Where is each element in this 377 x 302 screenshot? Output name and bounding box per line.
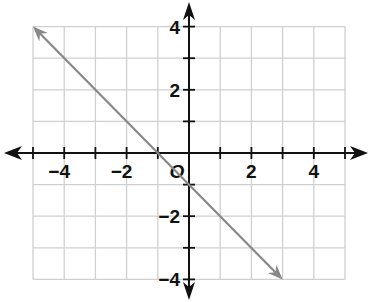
- x-tick-label: −4: [48, 161, 70, 182]
- x-tick-label: 2: [246, 161, 257, 182]
- x-tick-label: −2: [111, 161, 133, 182]
- y-tick-label: −2: [158, 206, 180, 227]
- coordinate-plane: −4−22442−2−4O: [0, 0, 377, 302]
- y-tick-label: −4: [158, 269, 180, 290]
- y-tick-label: 2: [169, 80, 180, 101]
- x-tick-label: 4: [309, 161, 320, 182]
- y-tick-label: 4: [169, 17, 180, 38]
